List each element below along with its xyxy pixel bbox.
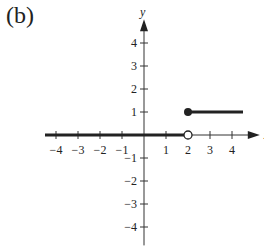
x-tick-label: 4 bbox=[229, 143, 235, 157]
x-tick-label: −3 bbox=[72, 143, 85, 157]
y-tick-label: −2 bbox=[124, 174, 137, 188]
step-function-plot: xy−4−3−2−11234−4−3−2−11234 bbox=[0, 0, 264, 251]
y-axis-arrow-icon bbox=[140, 19, 148, 31]
y-tick-label: −1 bbox=[124, 151, 137, 165]
x-axis-label: x bbox=[263, 128, 264, 142]
x-tick-label: −2 bbox=[94, 143, 107, 157]
y-tick-label: 2 bbox=[131, 82, 137, 96]
x-tick-label: 3 bbox=[207, 143, 213, 157]
closed-dot-icon bbox=[184, 108, 192, 116]
x-tick-label: 1 bbox=[163, 143, 169, 157]
x-tick-label: 2 bbox=[185, 143, 191, 157]
figure: (b) xy−4−3−2−11234−4−3−2−11234 bbox=[0, 0, 264, 251]
x-axis-arrow-icon bbox=[248, 131, 260, 139]
y-tick-label: 3 bbox=[131, 59, 137, 73]
x-tick-label: −4 bbox=[50, 143, 63, 157]
y-tick-label: −3 bbox=[124, 197, 137, 211]
open-circle-icon bbox=[184, 131, 192, 139]
y-tick-label: −4 bbox=[124, 220, 137, 234]
y-tick-label: 4 bbox=[131, 36, 137, 50]
y-tick-label: 1 bbox=[131, 105, 137, 119]
y-axis-label: y bbox=[139, 5, 146, 19]
